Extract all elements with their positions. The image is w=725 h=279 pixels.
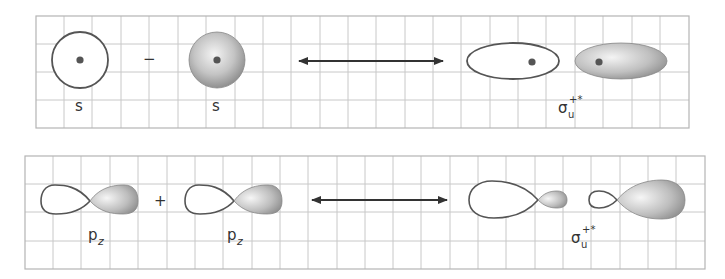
nucleus-dot xyxy=(213,56,220,63)
svg-text:z: z xyxy=(236,235,243,248)
svg-text:u: u xyxy=(568,109,574,120)
s-orbital-open xyxy=(52,32,108,88)
svg-text:σ: σ xyxy=(571,229,581,247)
nucleus-dot xyxy=(595,58,602,65)
label-s-left: s xyxy=(75,97,83,115)
svg-text:z: z xyxy=(97,235,104,248)
sigma-orbital-shaded-lobe xyxy=(575,43,667,79)
s-orbital-shaded xyxy=(189,32,245,88)
mo-diagram: s − s σ +* u xyxy=(0,0,725,279)
svg-text:σ: σ xyxy=(558,99,568,117)
sigma-pz-right-pair xyxy=(589,180,685,219)
label-sigma-u: σ +* u xyxy=(571,224,595,250)
operator-plus: + xyxy=(154,192,167,210)
nucleus-dot xyxy=(528,58,535,65)
pz-orbital-right xyxy=(185,185,282,214)
sigma-orbital-open-lobe xyxy=(467,43,559,79)
s-orbital-panel: s − s σ +* u xyxy=(36,16,689,128)
svg-text:+*: +* xyxy=(582,224,595,235)
svg-text:p: p xyxy=(227,226,237,244)
label-s-right: s xyxy=(212,97,220,115)
operator-minus: − xyxy=(143,50,156,68)
svg-text:p: p xyxy=(88,226,98,244)
label-pz-left: p z xyxy=(88,226,104,248)
label-pz-right: p z xyxy=(227,226,243,248)
label-sigma-u: σ +* u xyxy=(558,94,582,120)
svg-text:+*: +* xyxy=(569,94,582,105)
svg-text:u: u xyxy=(581,239,587,250)
pz-orbital-panel: p z + p z σ +* u xyxy=(25,156,705,269)
nucleus-dot xyxy=(76,56,83,63)
pz-orbital-left xyxy=(41,185,138,214)
